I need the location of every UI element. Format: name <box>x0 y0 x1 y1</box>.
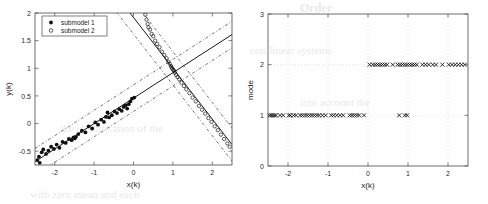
axis-ticks: -2-10120123 <box>260 11 468 177</box>
submodel-1-point <box>87 124 91 128</box>
svg-text:-1: -1 <box>325 170 331 177</box>
submodel-1-point <box>80 129 84 133</box>
svg-text:0: 0 <box>132 169 136 176</box>
submodel-1-point <box>41 148 45 152</box>
svg-text:0: 0 <box>260 163 264 170</box>
svg-text:mode: mode <box>246 79 255 100</box>
submodel-2-point <box>191 96 194 99</box>
submodel-1-point <box>115 111 119 115</box>
svg-text:submodel 2: submodel 2 <box>61 27 95 34</box>
submodel-1-point <box>44 152 48 156</box>
submodel-1-point <box>55 143 59 147</box>
svg-text:2: 2 <box>27 10 31 17</box>
mode-marker <box>357 113 361 117</box>
submodel-1-upper <box>35 21 232 148</box>
submodel-2-point <box>145 18 148 21</box>
submodel-2-point <box>197 104 200 107</box>
right-plot-svg: -2-10120123x(k)mode <box>244 0 488 204</box>
mode-marker <box>440 63 444 67</box>
submodel-2-point <box>210 120 213 123</box>
submodel-2-point <box>200 108 203 111</box>
submodel-2-point <box>188 91 191 94</box>
submodel-1-point <box>104 115 108 119</box>
submodel-1-point <box>58 146 62 150</box>
submodel-2-point <box>153 39 156 42</box>
mode-marker <box>281 113 285 117</box>
left-plot-svg: -2-1012-0.500.511.52x(k)y(k)submodel 1su… <box>0 0 244 204</box>
mode-marker <box>434 63 438 67</box>
svg-text:y(k): y(k) <box>4 82 13 96</box>
legend-marker-submodel-1 <box>49 21 53 25</box>
mode-marker <box>405 113 409 117</box>
submodel-1-point <box>110 113 114 117</box>
submodel-2-point <box>146 22 149 25</box>
submodel-1-point <box>102 120 106 124</box>
svg-text:-0.5: -0.5 <box>19 148 31 155</box>
svg-text:0.5: 0.5 <box>21 93 31 100</box>
mode-marker <box>341 113 345 117</box>
svg-text:1: 1 <box>27 65 31 72</box>
submodel-2-point <box>185 88 188 91</box>
submodel-1-point <box>125 107 129 111</box>
submodel-1-point <box>52 147 56 151</box>
submodel-1-point <box>90 127 94 131</box>
svg-text:1: 1 <box>171 169 175 176</box>
svg-text:-2: -2 <box>285 170 291 177</box>
submodel-1-point <box>38 161 42 165</box>
submodel-2-point <box>204 112 207 115</box>
svg-text:x(k): x(k) <box>127 180 141 189</box>
legend: submodel 1submodel 2 <box>42 16 107 36</box>
svg-text:1: 1 <box>260 112 264 119</box>
svg-text:0: 0 <box>27 120 31 127</box>
submodel-1-point <box>37 155 41 159</box>
svg-text:2: 2 <box>446 170 450 177</box>
svg-text:2: 2 <box>260 61 264 68</box>
submodel-2-point <box>213 125 216 128</box>
svg-text:3: 3 <box>260 11 264 18</box>
submodel-2-point <box>226 142 229 145</box>
mode-marker <box>324 113 328 117</box>
submodel-1-point <box>46 149 50 153</box>
submodel-2-point <box>216 128 219 131</box>
submodel-1-point <box>96 123 100 127</box>
svg-text:1.5: 1.5 <box>21 37 31 44</box>
mode-marker <box>294 113 298 117</box>
mode-sequence-plot: -2-10120123x(k)mode <box>244 0 488 204</box>
submodel-2-point <box>222 137 225 140</box>
svg-text:2: 2 <box>210 169 214 176</box>
submodel-2-point <box>228 145 231 148</box>
svg-text:x(k): x(k) <box>361 181 375 190</box>
svg-text:-1: -1 <box>91 169 97 176</box>
mode-marker <box>362 113 366 117</box>
submodel-1-point <box>120 109 124 113</box>
figure-root: Order the identification of the into acc… <box>0 0 488 204</box>
regression-scatter-plot: -2-1012-0.500.511.52x(k)y(k)submodel 1su… <box>0 0 244 204</box>
submodel-1-point <box>106 111 110 115</box>
submodel-1-point <box>84 130 88 134</box>
submodel-2-point <box>182 84 185 87</box>
submodel-2-point <box>219 133 222 136</box>
submodel-2-point <box>158 46 161 49</box>
gridlines <box>268 14 468 166</box>
submodel-2-point <box>155 42 158 45</box>
submodel-1-point <box>76 132 80 136</box>
svg-text:submodel 1: submodel 1 <box>61 19 95 26</box>
submodel-2-point <box>194 100 197 103</box>
submodel-2-point <box>180 81 183 84</box>
submodel-2-point <box>207 116 210 119</box>
submodel-1-point <box>132 96 136 100</box>
mode-markers <box>268 63 467 118</box>
svg-text:0: 0 <box>366 170 370 177</box>
svg-text:1: 1 <box>406 170 410 177</box>
svg-text:-2: -2 <box>52 169 58 176</box>
submodel-1-point <box>64 141 68 145</box>
